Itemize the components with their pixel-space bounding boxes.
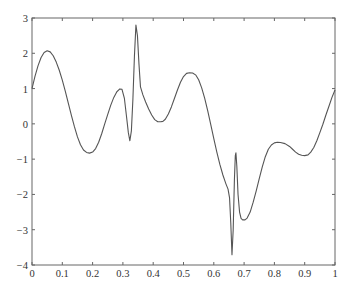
- x-tick-label: 1: [332, 268, 337, 279]
- x-tick-label: 0.4: [147, 268, 161, 279]
- x-tick-label: 0: [29, 268, 34, 279]
- line-chart: 00.10.20.30.40.50.60.70.80.91 3210−1−2−3…: [0, 0, 352, 293]
- x-tick-label: 0.2: [86, 268, 99, 279]
- y-tick-label: −4: [17, 260, 29, 271]
- y-tick-label: −2: [17, 189, 28, 200]
- x-tick-label: 0.5: [177, 268, 190, 279]
- y-tick-label: 1: [23, 84, 28, 95]
- x-tick-label: 0.9: [298, 268, 311, 279]
- y-tick-label: 3: [23, 13, 28, 24]
- y-tick-label: 0: [23, 119, 28, 130]
- y-tick-label: −3: [17, 225, 28, 236]
- x-tick-label: 0.6: [207, 268, 220, 279]
- x-tick-label: 0.1: [56, 268, 69, 279]
- data-line: [32, 25, 335, 255]
- y-axis: 3210−1−2−3−4: [17, 13, 335, 271]
- x-tick-label: 0.8: [268, 268, 281, 279]
- x-tick-label: 0.3: [116, 268, 129, 279]
- y-tick-label: 2: [23, 48, 28, 59]
- plot-area: [32, 18, 335, 265]
- y-tick-label: −1: [17, 154, 28, 165]
- x-tick-label: 0.7: [238, 268, 251, 279]
